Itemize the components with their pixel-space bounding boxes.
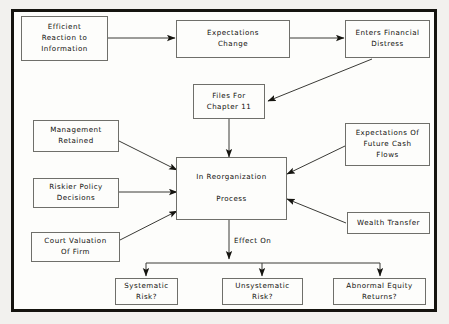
node-label: Court Valuation Of Firm xyxy=(44,236,106,258)
node-efficient-reaction: Efficient Reaction to Information xyxy=(21,16,108,61)
node-court-valuation-of-firm: Court Valuation Of Firm xyxy=(31,232,120,262)
node-unsystematic-risk: Unsystematic Risk? xyxy=(222,278,303,305)
node-files-chapter-11: Files For Chapter 11 xyxy=(193,84,265,119)
node-label: Management Retained xyxy=(50,125,102,147)
node-label: Expectations Of Future Cash Flows xyxy=(356,128,420,161)
node-label: Systematic Risk? xyxy=(124,281,168,303)
node-systematic-risk: Systematic Risk? xyxy=(115,278,178,305)
node-label: Expectations Change xyxy=(207,28,259,50)
node-riskier-policy-decisions: Riskier Policy Decisions xyxy=(33,178,119,208)
edge-label-effect-on: Effect On xyxy=(234,236,271,245)
node-label: Efficient Reaction to Information xyxy=(41,22,88,55)
node-expectations-change: Expectations Change xyxy=(176,20,290,58)
node-abnormal-equity-returns: Abnormal Equity Returns? xyxy=(333,278,426,305)
node-management-retained: Management Retained xyxy=(33,120,119,152)
node-enters-financial-distress: Enters Financial Distress xyxy=(345,20,430,58)
node-label: Enters Financial Distress xyxy=(355,28,419,50)
node-label: In Reorganization Process xyxy=(196,172,266,205)
node-label: Wealth Transfer xyxy=(357,218,420,229)
node-wealth-transfer: Wealth Transfer xyxy=(347,212,430,234)
diagram-canvas: Efficient Reaction to Information Expect… xyxy=(0,0,449,324)
node-label: Files For Chapter 11 xyxy=(207,91,252,113)
node-expectations-future-cash-flows: Expectations Of Future Cash Flows xyxy=(345,123,430,166)
node-label: Abnormal Equity Returns? xyxy=(346,281,412,303)
node-label: Unsystematic Risk? xyxy=(235,281,289,303)
node-in-reorganization-process: In Reorganization Process xyxy=(176,157,287,220)
node-label: Riskier Policy Decisions xyxy=(49,182,103,204)
